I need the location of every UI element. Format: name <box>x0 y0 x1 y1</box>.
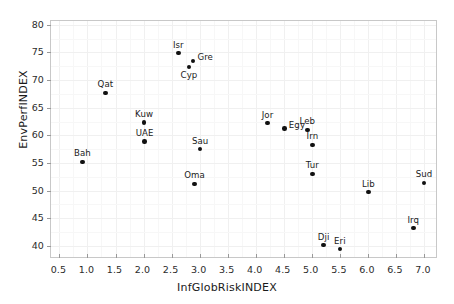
data-point-label: Bah <box>74 148 91 158</box>
data-point[interactable] <box>282 126 286 130</box>
gridline-vertical-minor <box>101 21 102 257</box>
x-tick-label: 0.5 <box>51 264 66 275</box>
gridline-horizontal-minor <box>51 149 436 150</box>
x-tick-label: 3.5 <box>219 264 234 275</box>
data-point-label: Kuw <box>135 109 153 119</box>
gridline-vertical <box>228 21 229 257</box>
gridline-horizontal <box>51 191 436 192</box>
data-point-label: Jor <box>262 110 274 120</box>
y-axis-tick <box>47 25 51 26</box>
gridline-vertical <box>59 21 60 257</box>
x-axis-tick <box>396 254 397 258</box>
x-tick-label: 6.5 <box>387 264 402 275</box>
x-axis-tick <box>116 254 117 258</box>
y-axis-tick <box>47 246 51 247</box>
x-axis-tick <box>256 254 257 258</box>
data-point[interactable] <box>176 51 180 55</box>
x-tick-label: 1.0 <box>79 264 94 275</box>
x-tick-label: 3.0 <box>191 264 206 275</box>
gridline-vertical-minor <box>73 21 74 257</box>
data-point-label: Sau <box>192 136 208 146</box>
data-point-label: Gre <box>197 52 213 62</box>
gridline-horizontal-minor <box>51 122 436 123</box>
gridline-vertical <box>396 21 397 257</box>
x-axis-tick <box>424 254 425 258</box>
data-point[interactable] <box>187 65 191 69</box>
x-axis-tick <box>144 254 145 258</box>
x-axis-tick <box>200 254 201 258</box>
x-axis-tick <box>87 254 88 258</box>
gridline-vertical-minor <box>270 21 271 257</box>
x-tick-label: 5.0 <box>303 264 318 275</box>
data-point-label: Qat <box>98 79 114 89</box>
data-point-label: Tur <box>306 160 319 170</box>
x-axis-tick <box>284 254 285 258</box>
data-point-label: Irq <box>407 215 419 225</box>
y-axis-tick <box>47 163 51 164</box>
gridline-horizontal-minor <box>51 177 436 178</box>
x-tick-label: 2.0 <box>135 264 150 275</box>
x-axis-title: InfGlobRiskINDEX <box>0 281 454 294</box>
gridline-vertical-minor <box>242 21 243 257</box>
x-tick-label: 1.5 <box>107 264 122 275</box>
data-point[interactable] <box>411 226 415 230</box>
gridline-vertical-minor <box>158 21 159 257</box>
data-point[interactable] <box>310 172 314 176</box>
y-tick-label: 45 <box>20 212 44 223</box>
x-axis-tick <box>172 254 173 258</box>
data-point[interactable] <box>198 147 202 151</box>
data-point[interactable] <box>103 91 107 95</box>
gridline-vertical-minor <box>130 21 131 257</box>
data-point[interactable] <box>142 139 146 143</box>
gridline-vertical-minor <box>382 21 383 257</box>
x-tick-label: 5.5 <box>331 264 346 275</box>
data-point[interactable] <box>338 247 342 251</box>
y-axis-tick <box>47 108 51 109</box>
y-axis-tick <box>47 218 51 219</box>
gridline-vertical <box>368 21 369 257</box>
gridline-horizontal <box>51 163 436 164</box>
data-point-label: Eri <box>334 236 346 246</box>
gridline-vertical <box>87 21 88 257</box>
data-point[interactable] <box>80 160 84 164</box>
gridline-vertical-minor <box>186 21 187 257</box>
data-point[interactable] <box>192 182 196 186</box>
data-point-label: Irn <box>307 131 319 141</box>
x-tick-label: 2.5 <box>163 264 178 275</box>
data-point[interactable] <box>191 59 195 63</box>
gridline-vertical-minor <box>354 21 355 257</box>
y-tick-label: 80 <box>20 18 44 29</box>
gridline-vertical <box>172 21 173 257</box>
gridline-vertical-minor <box>214 21 215 257</box>
gridline-vertical-minor <box>298 21 299 257</box>
gridline-horizontal <box>51 52 436 53</box>
gridline-vertical <box>424 21 425 257</box>
data-point-label: Oma <box>184 170 205 180</box>
gridline-vertical <box>256 21 257 257</box>
gridline-horizontal-minor <box>51 204 436 205</box>
data-point[interactable] <box>310 143 314 147</box>
gridline-horizontal <box>51 246 436 247</box>
data-point-label: UAE <box>136 128 154 138</box>
gridline-horizontal <box>51 25 436 26</box>
y-axis-tick <box>47 80 51 81</box>
data-point-label: Isr <box>173 40 184 50</box>
gridline-vertical <box>116 21 117 257</box>
data-point[interactable] <box>265 121 269 125</box>
data-point[interactable] <box>366 190 370 194</box>
y-axis-title: EnvPerfINDEX <box>17 40 30 180</box>
data-point-label: Dji <box>318 232 330 242</box>
data-point-label: Sud <box>416 169 433 179</box>
y-tick-label: 40 <box>20 239 44 250</box>
data-point-label: Lib <box>362 179 375 189</box>
y-axis-tick <box>47 191 51 192</box>
plot-area: BahQatKuwUAEIsrCypGreOmaSauJorEgyLebIrnT… <box>50 20 437 258</box>
data-point[interactable] <box>142 120 146 124</box>
gridline-horizontal-minor <box>51 94 436 95</box>
gridline-horizontal <box>51 135 436 136</box>
x-axis-tick <box>368 254 369 258</box>
data-point[interactable] <box>422 181 426 185</box>
x-tick-label: 4.5 <box>275 264 290 275</box>
y-axis-tick <box>47 135 51 136</box>
data-point-label: Leb <box>299 116 315 126</box>
